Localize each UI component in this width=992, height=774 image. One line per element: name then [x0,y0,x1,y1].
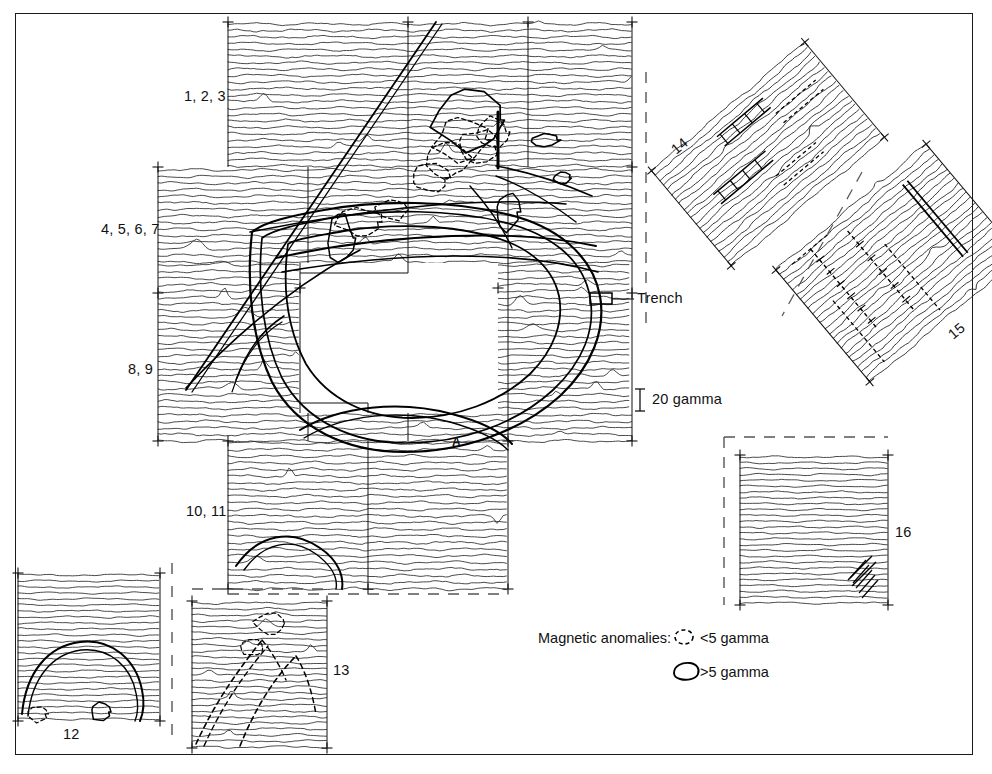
scale-bar-label: 20 gamma [652,391,722,407]
figure-border [15,13,973,755]
block-label-12: 12 [63,726,80,742]
trench-label: Trench [637,290,683,306]
feature-label-a: A [452,435,461,449]
block-label-16: 16 [895,524,912,540]
block-label-1011: 10, 11 [186,503,226,519]
block-label-4567: 4, 5, 6, 7 [101,221,159,237]
figure-root: 1, 2, 3 4, 5, 6, 7 8, 9 10, 11 12 13 14 … [0,0,992,774]
legend-entry-lt5: <5 gamma [700,630,769,646]
legend-entry-gt5: >5 gamma [700,664,769,680]
block-label-89: 8, 9 [128,361,153,377]
block-label-13: 13 [333,662,350,678]
legend-title: Magnetic anomalies: [538,630,671,646]
block-label-123: 1, 2, 3 [184,88,226,104]
